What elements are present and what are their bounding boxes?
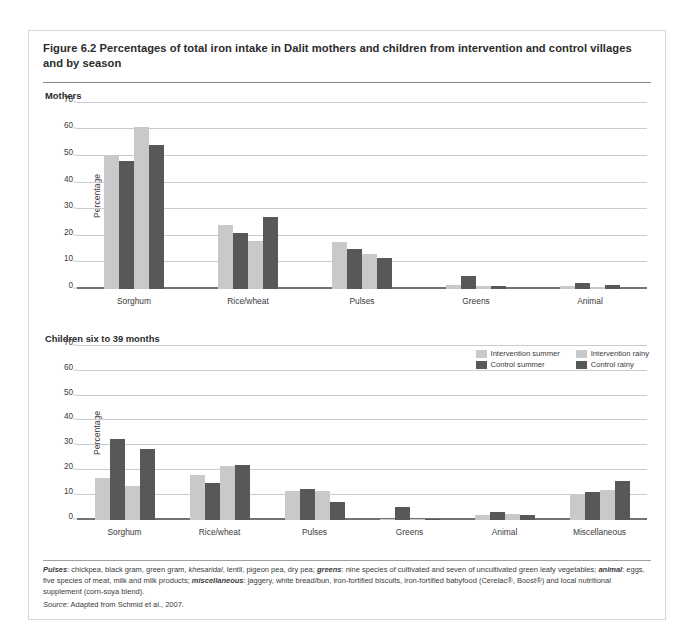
y-axis-tick-label: 10 [64, 486, 73, 495]
bar [190, 475, 205, 520]
source-text: Adapted from Schmid et al., 2007. [71, 600, 184, 609]
bar [104, 156, 119, 289]
bar [332, 242, 347, 289]
source-label: Source: [43, 600, 69, 609]
chart-panel-mothers: Mothers Percentage 010203040506070 Sorgh… [43, 90, 651, 311]
y-axis-tick-label: 20 [64, 227, 73, 236]
x-axis-tick-label: Greens [419, 291, 533, 311]
bar-group [362, 346, 457, 520]
bar [95, 478, 110, 520]
y-axis-tick-label: 40 [64, 412, 73, 421]
bar [446, 285, 461, 289]
bar [605, 285, 620, 289]
chart-title-children: Children six to 39 months [45, 333, 651, 344]
plot-area-children: Percentage 010203040506070 SorghumRice/w… [77, 346, 647, 542]
x-axis-tick-label: Greens [362, 522, 457, 542]
y-axis-tick-label: 20 [64, 462, 73, 471]
bar [410, 519, 425, 520]
bar [205, 483, 220, 520]
bar-group [191, 103, 305, 289]
bar [520, 515, 535, 520]
x-axis-labels-children: SorghumRice/wheatPulsesGreensAnimalMisce… [77, 522, 647, 542]
bar [615, 481, 630, 520]
bar [263, 217, 278, 289]
y-axis-tick-label: 30 [64, 201, 73, 210]
bar-group [77, 103, 191, 289]
bar [248, 241, 263, 289]
figure-container: Figure 6.2 Percentages of total iron int… [28, 30, 666, 620]
y-axis-tick-label: 50 [64, 147, 73, 156]
figure-title-block: Figure 6.2 Percentages of total iron int… [29, 31, 665, 77]
notes-source: Source: Adapted from Schmid et al., 2007… [43, 600, 651, 611]
chart-title-mothers: Mothers [45, 90, 651, 101]
bar [149, 145, 164, 288]
bar-group [457, 346, 552, 520]
x-axis-tick-label: Rice/wheat [172, 522, 267, 542]
bar [218, 225, 233, 289]
bar-group [552, 346, 647, 520]
bar [125, 486, 140, 520]
y-axis-tick-label: 60 [64, 121, 73, 130]
x-axis-tick-label: Rice/wheat [191, 291, 305, 311]
bar [461, 276, 476, 289]
bar-group [267, 346, 362, 520]
notes-divider [43, 560, 651, 561]
bar [395, 507, 410, 519]
bars-layer-children [77, 346, 647, 520]
bar [110, 439, 125, 520]
plot-area-mothers: Percentage 010203040506070 SorghumRice/w… [77, 103, 647, 311]
figure-title-text: Percentages of total iron intake in Dali… [43, 42, 632, 69]
x-axis-tick-label: Sorghum [77, 291, 191, 311]
figure-notes: Pulses: chickpea, black gram, green gram… [43, 560, 651, 611]
bar [505, 514, 520, 520]
y-axis-tick-label: 60 [64, 362, 73, 371]
bar [330, 502, 345, 519]
notes-definitions: Pulses: chickpea, black gram, green gram… [43, 565, 651, 597]
bar [475, 515, 490, 520]
bar [425, 519, 440, 520]
bar [590, 287, 605, 289]
y-axis-tick-label: 30 [64, 437, 73, 446]
bar [585, 492, 600, 519]
x-axis-tick-label: Animal [533, 291, 647, 311]
bar [235, 465, 250, 520]
bar [570, 495, 585, 520]
bar-group [305, 103, 419, 289]
y-axis-tick-label: 50 [64, 387, 73, 396]
bar [347, 249, 362, 289]
y-axis-tick-label: 40 [64, 174, 73, 183]
chart-panel-children: Children six to 39 months Percentage 010… [43, 333, 651, 542]
bar [285, 491, 300, 520]
bar-group [419, 103, 533, 289]
bar [220, 466, 235, 519]
x-axis-tick-label: Pulses [267, 522, 362, 542]
bar [380, 519, 395, 520]
bar [377, 258, 392, 289]
bar [560, 286, 575, 289]
x-axis-tick-label: Miscellaneous [552, 522, 647, 542]
bar-group [533, 103, 647, 289]
bar [233, 233, 248, 289]
bars-layer-mothers [77, 103, 647, 289]
bar [119, 161, 134, 289]
y-axis-tick-label: 10 [64, 254, 73, 263]
y-axis-tick-label: 70 [64, 337, 73, 346]
bar [315, 491, 330, 520]
figure-number: Figure 6.2 [43, 42, 96, 54]
title-divider [43, 82, 651, 83]
bar-group [172, 346, 267, 520]
bar [491, 286, 506, 289]
bar [134, 127, 149, 289]
bar [300, 489, 315, 520]
x-axis-tick-label: Sorghum [77, 522, 172, 542]
bar [490, 512, 505, 519]
bar [600, 490, 615, 520]
x-axis-labels-mothers: SorghumRice/wheatPulsesGreensAnimal [77, 291, 647, 311]
bar [362, 254, 377, 289]
bar [140, 449, 155, 520]
x-axis-tick-label: Pulses [305, 291, 419, 311]
bar [575, 283, 590, 288]
bar-group [77, 346, 172, 520]
page-title: Figure 6.2 Percentages of total iron int… [43, 41, 651, 71]
x-axis-tick-label: Animal [457, 522, 552, 542]
